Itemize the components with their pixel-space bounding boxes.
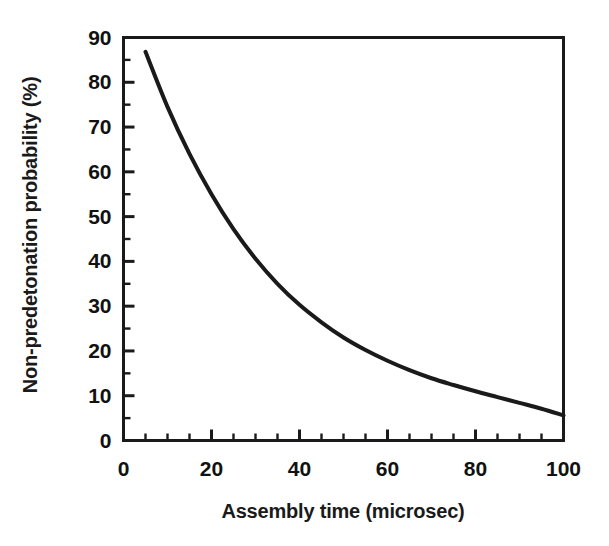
y-axis-tick-label: 0 <box>54 429 112 453</box>
data-series-line-0 <box>146 52 564 416</box>
plot-frame <box>124 38 564 441</box>
x-axis-tick-label: 100 <box>546 457 581 481</box>
y-axis-tick-label: 90 <box>54 26 112 50</box>
y-axis-tick-label: 70 <box>54 115 112 139</box>
y-axis-tick-label: 20 <box>54 339 112 363</box>
x-axis-tick-label: 60 <box>376 457 399 481</box>
x-axis-tick-label: 80 <box>464 457 487 481</box>
y-axis-tick-label: 30 <box>54 294 112 318</box>
chart-figure: 0102030405060708090020406080100 Non-pred… <box>0 0 609 546</box>
x-axis-tick-label: 40 <box>288 457 311 481</box>
y-axis-tick-label: 60 <box>54 160 112 184</box>
y-axis-label: Non-predetonation probability (%) <box>8 15 52 455</box>
x-axis-tick-label: 0 <box>118 457 130 481</box>
x-axis-tick-label: 20 <box>200 457 223 481</box>
y-axis-tick-label: 50 <box>54 205 112 229</box>
plot-area: 0102030405060708090020406080100 <box>0 0 609 546</box>
y-axis-tick-label: 40 <box>54 249 112 273</box>
y-axis-tick-label: 80 <box>54 70 112 94</box>
y-axis-tick-label: 10 <box>54 384 112 408</box>
x-axis-label: Assembly time (microsec) <box>123 500 563 523</box>
